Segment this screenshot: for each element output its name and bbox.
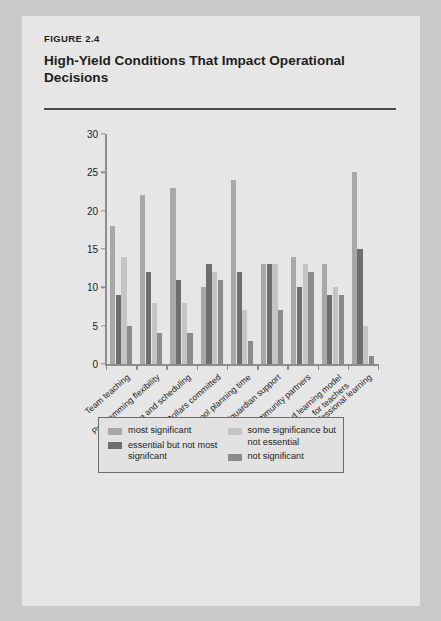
bar [322,264,327,364]
figure-number: FIGURE 2.4 [44,33,100,44]
x-axis-tick-mark [378,365,379,370]
bar [333,287,338,364]
x-axis-tick-mark [136,365,137,370]
bar [272,264,277,364]
y-axis-tick-label: 10 [44,282,105,293]
x-axis-tick-mark [106,365,107,370]
bar [152,303,157,364]
bar [352,172,357,364]
legend-label: essential but not most signifcant [128,440,224,463]
bar [170,188,175,364]
bar [116,295,121,364]
bar [182,303,187,364]
y-axis-tick-label: 25 [44,167,105,178]
legend-swatch-not-significant [228,454,242,461]
y-axis-tick-label: 20 [44,205,105,216]
bar [278,310,283,364]
x-axis-tick-mark [227,365,228,370]
bar [206,264,211,364]
legend-column-right: some significance but not essential not … [224,418,344,472]
figure-page: FIGURE 2.4 High-Yield Conditions That Im… [22,16,420,606]
bar [157,333,162,364]
bar [176,280,181,364]
y-axis-tick-mark [101,287,105,288]
bar [248,341,253,364]
chart-legend: most significant essential but not most … [98,417,344,473]
legend-label: some significance but not essential [248,425,344,448]
bar [369,356,374,364]
bar [127,326,132,364]
bar-groups [106,134,378,364]
bar [218,280,223,364]
bar [363,326,368,364]
bar [291,257,296,364]
bar [267,264,272,364]
bar [297,287,302,364]
y-axis-tick-label: 0 [44,359,105,370]
x-axis-tick-mark [287,365,288,370]
bar [110,226,115,364]
legend-label: most significant [128,425,191,437]
legend-column-left: most significant essential but not most … [99,418,224,472]
x-axis-tick-mark [197,365,198,370]
bar [327,295,332,364]
bar-group [318,134,348,364]
y-axis-tick-label: 5 [44,320,105,331]
bar-group [106,134,136,364]
bar [237,272,242,364]
x-axis-tick-mark [257,365,258,370]
y-axis-tick-mark [101,248,105,249]
bar [303,264,308,364]
bar-group [348,134,378,364]
bar [261,264,266,364]
title-divider [44,108,396,110]
legend-item: essential but not most signifcant [108,440,224,463]
y-axis-tick-label: 30 [44,129,105,140]
legend-label: not significant [248,451,304,463]
x-axis-tick-mark [318,365,319,370]
bar-group [287,134,317,364]
y-axis-tick-mark [101,363,105,364]
x-axis-line [105,364,379,366]
y-axis-tick-mark [101,133,105,134]
legend-item: most significant [108,425,224,437]
x-axis-tick-mark [348,365,349,370]
legend-swatch-essential-but-not-most-significant [108,442,122,449]
bar [357,249,362,364]
y-axis-tick-label: 15 [44,244,105,255]
legend-swatch-some-significance-but-not-essential [228,428,242,435]
legend-swatch-most-significant [108,428,122,435]
bar [121,257,126,364]
bar-group [197,134,227,364]
bar-group [227,134,257,364]
x-axis-tick-mark [166,365,167,370]
bar [242,310,247,364]
bar [187,333,192,364]
bar [140,195,145,364]
y-axis-tick-mark [101,210,105,211]
bar [308,272,313,364]
bar [339,295,344,364]
y-axis-tick-mark [101,172,105,173]
bar [212,272,217,364]
legend-item: not significant [228,451,344,463]
figure-title: High-Yield Conditions That Impact Operat… [44,52,394,86]
bar-group [257,134,287,364]
bar [231,180,236,364]
bar-group [166,134,196,364]
y-axis-tick-mark [101,325,105,326]
bar [146,272,151,364]
legend-item: some significance but not essential [228,425,344,448]
bar-group [136,134,166,364]
bar [201,287,206,364]
